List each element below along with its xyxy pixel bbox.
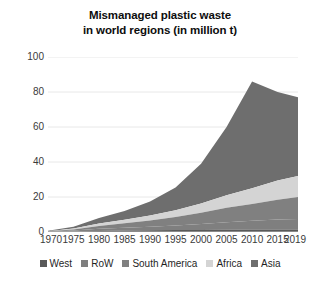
x-axis-tick-label: 1970: [40, 234, 62, 246]
legend-item-west[interactable]: West: [40, 258, 73, 269]
y-axis-tick-label: 100: [0, 52, 44, 62]
chart-title-line-1: Mismanaged plastic waste: [0, 8, 320, 23]
y-axis-tick-label: 0: [0, 227, 44, 237]
chart-legend: WestRoWSouth AmericaAfricaAsia: [0, 258, 320, 269]
area-series-group: [48, 82, 298, 233]
y-axis-tick-label: 80: [0, 87, 44, 97]
legend-swatch-icon: [251, 260, 258, 267]
y-axis-tick-label: 20: [0, 192, 44, 202]
legend-label: Africa: [216, 258, 242, 269]
legend-label: RoW: [91, 258, 113, 269]
legend-label: South America: [132, 258, 197, 269]
chart-title: Mismanaged plastic waste in world region…: [0, 8, 320, 38]
stacked-area-plot: [48, 57, 298, 232]
legend-swatch-icon: [206, 260, 213, 267]
legend-swatch-icon: [81, 260, 88, 267]
x-axis-tick-label: 2019: [284, 234, 306, 246]
x-axis-tick-label: 1975: [62, 234, 84, 246]
x-axis: 1970197519801985199019952000200520102015…: [48, 234, 298, 250]
legend-label: Asia: [261, 258, 280, 269]
x-axis-tick-label: 2005: [215, 234, 237, 246]
chart-container: Mismanaged plastic waste in world region…: [0, 0, 320, 288]
chart-title-line-2: in world regions (in million t): [0, 23, 320, 38]
x-axis-tick-label: 1990: [139, 234, 161, 246]
legend-item-row[interactable]: RoW: [81, 258, 113, 269]
x-axis-tick-label: 2000: [190, 234, 212, 246]
y-axis-tick-label: 40: [0, 157, 44, 167]
x-axis-tick-label: 1985: [113, 234, 135, 246]
plot-area: [48, 57, 298, 232]
legend-label: West: [50, 258, 73, 269]
x-axis-tick-label: 2010: [241, 234, 263, 246]
legend-swatch-icon: [122, 260, 129, 267]
legend-swatch-icon: [40, 260, 47, 267]
legend-item-asia[interactable]: Asia: [251, 258, 280, 269]
x-axis-tick-label: 1980: [88, 234, 110, 246]
legend-item-south-america[interactable]: South America: [122, 258, 197, 269]
y-axis: 020406080100: [0, 57, 44, 232]
y-axis-tick-label: 60: [0, 122, 44, 132]
x-axis-tick-label: 1995: [164, 234, 186, 246]
legend-item-africa[interactable]: Africa: [206, 258, 242, 269]
